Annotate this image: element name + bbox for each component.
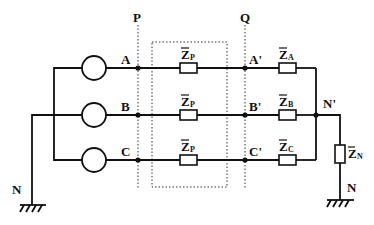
neutral-impedance-icon [335, 145, 345, 163]
neutral-wire-top [316, 115, 340, 145]
load-impedance-a-icon [279, 63, 296, 73]
node-b-prime-dot [242, 112, 247, 117]
source-a-icon [82, 56, 106, 80]
zc-label: Z C [279, 139, 294, 154]
node-n-prime-label: N' [323, 96, 336, 111]
source-common-ac-wire [54, 68, 82, 160]
svg-text:A: A [288, 53, 294, 62]
node-c-label: C [121, 144, 130, 159]
load-impedance-b-icon [279, 110, 296, 120]
svg-text:Z: Z [279, 139, 288, 154]
zp-label-a: Z P [181, 47, 195, 62]
node-n-right-label: N [347, 180, 357, 195]
node-c-dot [135, 157, 140, 162]
svg-text:Z: Z [181, 94, 190, 109]
node-a-dot [135, 65, 140, 70]
line-impedance-b-icon [180, 110, 197, 120]
node-a-prime-label: A' [249, 52, 262, 67]
node-n-left-label: N [12, 182, 22, 197]
node-a-label: A [121, 52, 131, 67]
zp-label-c: Z P [181, 139, 195, 154]
za-label: Z A [279, 47, 294, 62]
svg-text:P: P [190, 145, 195, 154]
node-a-prime-dot [242, 65, 247, 70]
svg-text:P: P [190, 100, 195, 109]
line-impedance-a-icon [180, 63, 197, 73]
source-c-icon [82, 148, 106, 172]
svg-text:B: B [288, 100, 294, 109]
node-c-prime-label: C' [249, 144, 262, 159]
zb-label: Z B [279, 94, 294, 109]
node-c-prime-dot [242, 157, 247, 162]
svg-text:N: N [357, 152, 363, 161]
svg-text:Z: Z [181, 139, 190, 154]
ground-right-icon [327, 200, 354, 207]
plane-q-label: Q [240, 10, 250, 25]
svg-text:Z: Z [279, 47, 288, 62]
three-phase-circuit-diagram: P Q N A B C A' B' C' N' Z P Z [0, 0, 374, 225]
zn-label: Z N [348, 146, 363, 161]
node-b-prime-label: B' [249, 99, 261, 114]
zp-label-b: Z P [181, 94, 195, 109]
node-b-dot [135, 112, 140, 117]
ground-left-icon [20, 205, 46, 212]
svg-text:Z: Z [279, 94, 288, 109]
node-b-label: B [121, 99, 130, 114]
source-b-icon [82, 103, 106, 127]
load-impedance-c-icon [279, 155, 296, 165]
line-impedance-c-icon [180, 155, 197, 165]
svg-text:Z: Z [348, 146, 357, 161]
svg-text:P: P [190, 53, 195, 62]
svg-text:C: C [288, 145, 294, 154]
svg-text:Z: Z [181, 47, 190, 62]
plane-p-label: P [133, 10, 141, 25]
